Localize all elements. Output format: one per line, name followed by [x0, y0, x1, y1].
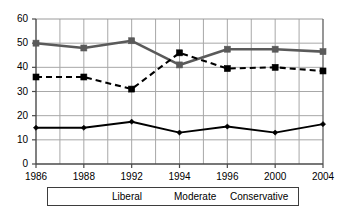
x-axis-tick-label: 1996 [207, 172, 247, 182]
chart-legend: LiberalModerateConservative [47, 187, 299, 206]
y-axis-tick-label: 40 [8, 62, 28, 72]
legend-label-moderate: Moderate [174, 191, 216, 202]
x-axis-tick-label: 1992 [112, 172, 152, 182]
y-axis-tick-label: 30 [8, 87, 28, 97]
y-axis-tick-label: 10 [8, 135, 28, 145]
legend-entries: LiberalModerateConservative [48, 188, 298, 205]
x-axis-tick-label: 2000 [255, 172, 295, 182]
x-axis-tick-label: 1988 [64, 172, 104, 182]
x-axis-tick-label: 1994 [160, 172, 200, 182]
y-axis-tick-label: 50 [8, 38, 28, 48]
legend-label-liberal: Liberal [112, 191, 142, 202]
y-axis-tick-label: 20 [8, 111, 28, 121]
x-axis-tick-label: 1986 [16, 172, 56, 182]
x-axis-tick-label: 2004 [303, 172, 343, 182]
line-chart: 0102030405060 19861988199219941996200020… [0, 0, 344, 213]
y-axis-tick-label: 60 [8, 14, 28, 24]
legend-label-conservative: Conservative [230, 191, 288, 202]
y-axis-tick-label: 0 [8, 159, 28, 169]
